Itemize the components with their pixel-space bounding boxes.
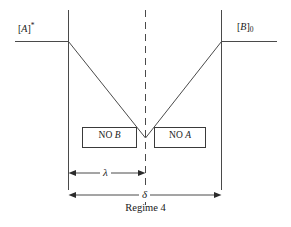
delta-arrowhead-right <box>214 192 222 198</box>
lambda-symbol: λ <box>100 166 111 178</box>
lambda-arrowhead-left <box>69 170 77 176</box>
lambda-arrowhead-right <box>138 170 146 176</box>
subscript-zero: 0 <box>250 25 254 34</box>
concentration-b-label: [B]0 <box>237 22 254 32</box>
concentration-a-label: [A]* <box>18 22 35 34</box>
region-no-b-species: B <box>115 130 121 140</box>
region-label-no-a: NO A <box>154 127 206 148</box>
diagram-canvas: [A]* [B]0 NO B NO A λ δ Regime 4 <box>0 0 291 227</box>
region-no-b-prefix: NO <box>99 130 115 140</box>
delta-symbol: δ <box>139 188 150 200</box>
figure-caption: Regime 4 <box>0 203 291 214</box>
concentration-b-gradient-line <box>146 42 222 139</box>
delta-arrowhead-left <box>69 192 77 198</box>
superscript-star: * <box>31 21 35 30</box>
region-no-a-prefix: NO <box>169 130 185 140</box>
region-no-a-species: A <box>185 130 191 140</box>
region-label-no-b: NO B <box>82 127 137 148</box>
concentration-a-gradient-line <box>69 42 146 139</box>
